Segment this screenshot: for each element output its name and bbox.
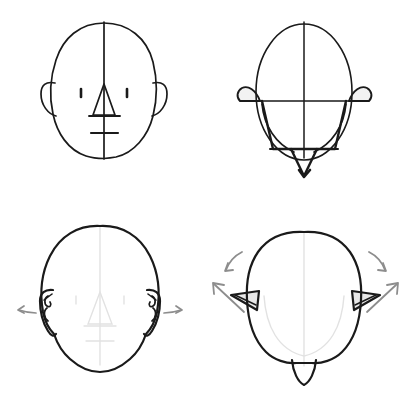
left-cheek-curve	[262, 104, 294, 152]
arrow-front-right	[164, 306, 182, 313]
panel-front-view-refined	[0, 200, 203, 400]
panel-front-view-schematic	[0, 0, 203, 200]
arrow-front-left	[18, 306, 36, 313]
arrow-top-right-curved	[369, 252, 386, 271]
panel-top-view-refined	[204, 200, 407, 400]
arrow-top-left-curved	[225, 252, 242, 271]
right-cheek-curve	[314, 104, 346, 152]
panel-top-view-schematic	[204, 0, 407, 200]
left-ear-icon	[41, 82, 56, 116]
head-construction-diagram: Head Construction Reference — Ear Placem…	[0, 0, 407, 400]
